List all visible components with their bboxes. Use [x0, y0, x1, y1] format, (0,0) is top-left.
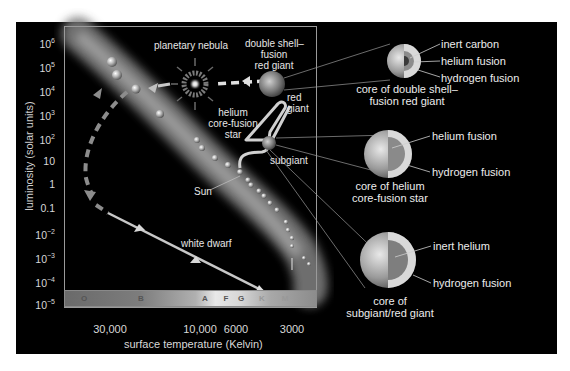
label-white-dwarf: white dwarf	[181, 238, 232, 249]
label-sun: Sun	[194, 186, 212, 197]
y-tick: 106	[39, 35, 55, 50]
y-tick: 10−2	[35, 226, 55, 241]
core-diagram-helium-core	[364, 130, 430, 178]
y-tick: 10−3	[35, 250, 55, 265]
core1-title: core of double shell– fusion red giant	[352, 83, 462, 107]
core2-layer-helium-fusion: helium fusion	[432, 130, 497, 142]
spectral-class-m: M	[282, 294, 289, 303]
core-diagram-subgiant	[360, 232, 431, 288]
core2-layer-hydrogen-fusion: hydrogen fusion	[432, 166, 510, 178]
x-tick: 6000	[224, 323, 248, 335]
core-diagram-double-shell	[387, 44, 440, 78]
label-double-shell-red-giant: double shell– fusion red giant	[245, 38, 303, 71]
core3-layer-hydrogen-fusion: hydrogen fusion	[433, 277, 511, 289]
y-axis-ticks: 106 105 104 103 102 10 1 0.1 10−2 10−3 1…	[16, 0, 55, 371]
y-tick: 105	[39, 59, 55, 74]
spectral-class-g: G	[238, 294, 244, 303]
spectral-class-a: A	[202, 294, 208, 303]
core3-layer-inert-helium: inert helium	[433, 240, 490, 252]
spectral-class-f: F	[224, 294, 229, 303]
core3-title: core of subgiant/red giant	[340, 295, 440, 319]
label-helium-core-fusion-star: helium core-fusion star	[203, 107, 263, 140]
y-tick: 103	[39, 107, 55, 122]
y-tick: 0.1	[40, 202, 55, 214]
spectral-class-bar	[64, 290, 317, 307]
y-tick: 10−5	[35, 296, 55, 311]
y-axis-label: luminosity (solar units)	[23, 81, 35, 231]
spectral-class-o: O	[81, 294, 87, 303]
y-tick: 10	[43, 155, 55, 167]
label-red-giant: red giant	[287, 92, 309, 114]
x-axis-label: surface temperature (Kelvin)	[124, 338, 263, 350]
spectral-class-b: B	[138, 294, 144, 303]
label-subgiant: subgiant	[270, 155, 308, 166]
core1-layer-inert-carbon: inert carbon	[441, 38, 499, 50]
label-planetary-nebula: planetary nebula	[154, 40, 228, 51]
y-tick: 104	[39, 83, 55, 98]
y-tick: 10−4	[35, 274, 55, 289]
y-tick: 102	[39, 131, 55, 146]
x-tick: 30,000	[93, 323, 127, 335]
core2-title: core of helium core-fusion star	[345, 180, 435, 204]
x-tick: 10,000	[183, 323, 217, 335]
x-tick: 3000	[280, 323, 304, 335]
spectral-class-k: K	[259, 294, 265, 303]
core1-layer-helium-fusion: helium fusion	[441, 55, 506, 67]
y-tick: 1	[49, 178, 55, 190]
